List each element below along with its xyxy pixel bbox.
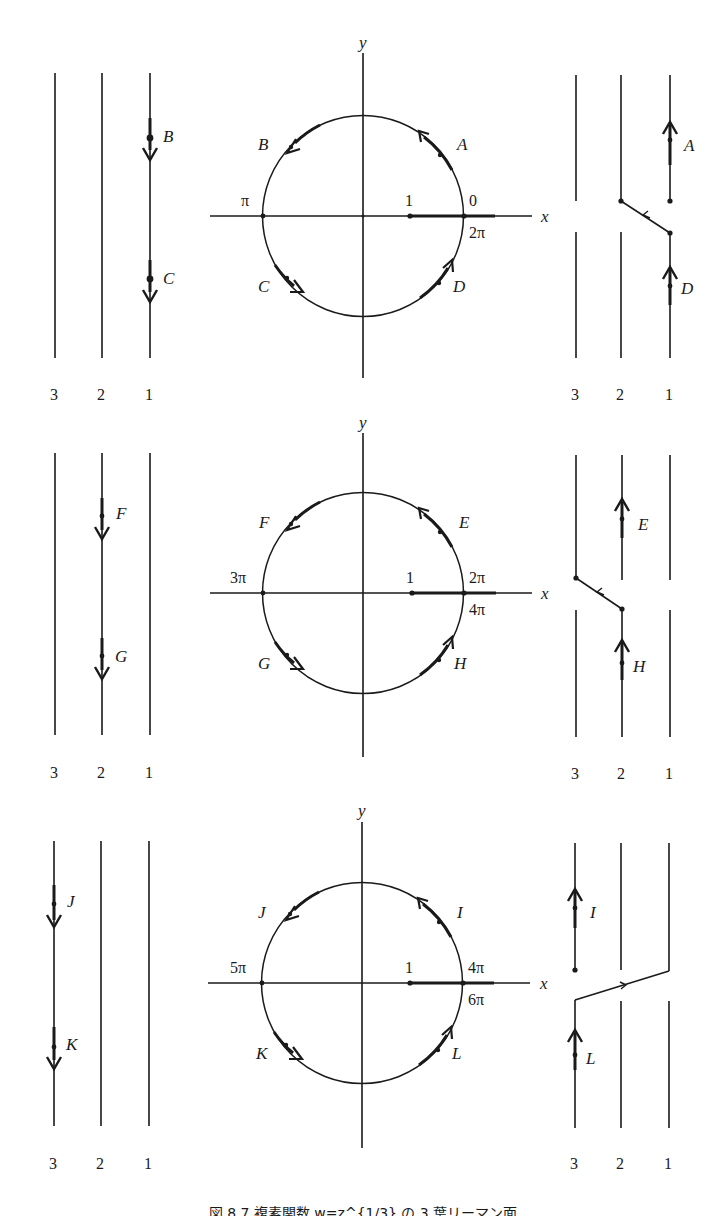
angle-label-left: 5π xyxy=(230,959,246,976)
arrow-label-E: E xyxy=(637,515,649,534)
angle-label-right-top: 2π xyxy=(469,569,485,586)
left-sheets-panel-2 xyxy=(55,453,150,735)
arc-label-H: H xyxy=(453,654,468,673)
arrow-label-L: L xyxy=(585,1049,595,1068)
arrow-label-G: G xyxy=(115,647,127,666)
sheet-transition xyxy=(575,971,669,1000)
sheet-label-2: 2 xyxy=(97,764,105,781)
sheet-label-2: 2 xyxy=(617,765,625,782)
sheet-label-3: 3 xyxy=(50,764,58,781)
sheet-label-3: 3 xyxy=(571,765,579,782)
x-axis-label: x xyxy=(539,974,548,993)
sheet-label-1: 1 xyxy=(145,386,153,403)
y-axis-label: y xyxy=(357,33,367,52)
angle-label-right-bottom: 6π xyxy=(468,991,484,1008)
angle-label-right-bottom: 4π xyxy=(469,601,485,618)
x-axis-label: x xyxy=(540,207,549,226)
arrow-label-K: K xyxy=(65,1035,79,1054)
arc-label-G: G xyxy=(258,654,270,673)
angle-label-right-top: 0 xyxy=(469,192,477,209)
complex-plane-panel-1 xyxy=(210,53,532,378)
riemann-surface-figure: B C 3 2 1 xyxy=(0,0,726,1216)
complex-plane-panel-2 xyxy=(210,433,532,757)
sheet-label-2: 2 xyxy=(616,386,624,403)
right-sheets-panel-1 xyxy=(576,75,677,358)
sheet-label-1: 1 xyxy=(665,386,673,403)
x-axis-label: x xyxy=(540,584,549,603)
sheet-label-1: 1 xyxy=(144,1155,152,1172)
arc-label-F: F xyxy=(258,513,270,532)
arrow-label-H: H xyxy=(632,657,647,676)
arrow-icon xyxy=(597,588,604,595)
y-axis-label: y xyxy=(357,413,367,432)
sheet-label-1: 1 xyxy=(665,765,673,782)
arc-label-B: B xyxy=(258,135,269,154)
sheet-transition xyxy=(621,201,670,233)
angle-label-right-top: 4π xyxy=(468,959,484,976)
sheet-label-2: 2 xyxy=(96,1155,104,1172)
arc-label-A: A xyxy=(456,135,468,154)
left-sheets-panel-3 xyxy=(47,841,149,1126)
unit-point-label: 1 xyxy=(406,569,414,586)
arrow-label-C: C xyxy=(163,269,175,288)
arc-label-I: I xyxy=(456,903,464,922)
panel-2: F G 3 2 1 y x 1 xyxy=(50,413,673,782)
arc-label-D: D xyxy=(452,277,466,296)
sheet-label-1: 1 xyxy=(145,764,153,781)
sheet-label-2: 2 xyxy=(97,386,105,403)
unit-point-label: 1 xyxy=(405,959,413,976)
angle-label-right-bottom: 2π xyxy=(469,224,485,241)
right-sheets-panel-3 xyxy=(568,843,669,1128)
panel-3: J K 3 2 1 y x 1 xyxy=(47,801,672,1172)
left-sheets-panel-1 xyxy=(55,73,157,358)
arc-label-K: K xyxy=(255,1044,269,1063)
sheet-label-3: 3 xyxy=(570,1155,578,1172)
arrow-label-J: J xyxy=(67,892,76,911)
arc-label-C: C xyxy=(258,277,270,296)
sheet-label-3: 3 xyxy=(50,386,58,403)
complex-plane-panel-3 xyxy=(208,822,530,1148)
y-axis-label: y xyxy=(356,801,366,820)
arrow-label-F: F xyxy=(115,504,127,523)
arc-label-J: J xyxy=(258,903,267,922)
right-sheets-panel-2 xyxy=(576,455,670,737)
arrow-label-D: D xyxy=(680,279,694,298)
arrow-label-I: I xyxy=(589,903,597,922)
sheet-label-2: 2 xyxy=(616,1155,624,1172)
unit-point-label: 1 xyxy=(405,192,413,209)
angle-label-left: π xyxy=(241,192,249,209)
panel-1: B C 3 2 1 xyxy=(50,33,695,403)
arrow-label-B: B xyxy=(163,127,174,146)
angle-label-left: 3π xyxy=(230,569,246,586)
sheet-label-1: 1 xyxy=(664,1155,672,1172)
arc-label-L: L xyxy=(451,1044,461,1063)
arc-label-E: E xyxy=(458,513,470,532)
arrow-label-A: A xyxy=(683,136,695,155)
sheet-label-3: 3 xyxy=(571,386,579,403)
figure-caption: 図 8.7 複素関数 w=z^{1/3} の 3 葉リーマン面 xyxy=(0,1203,726,1216)
sheet-label-3: 3 xyxy=(49,1155,57,1172)
